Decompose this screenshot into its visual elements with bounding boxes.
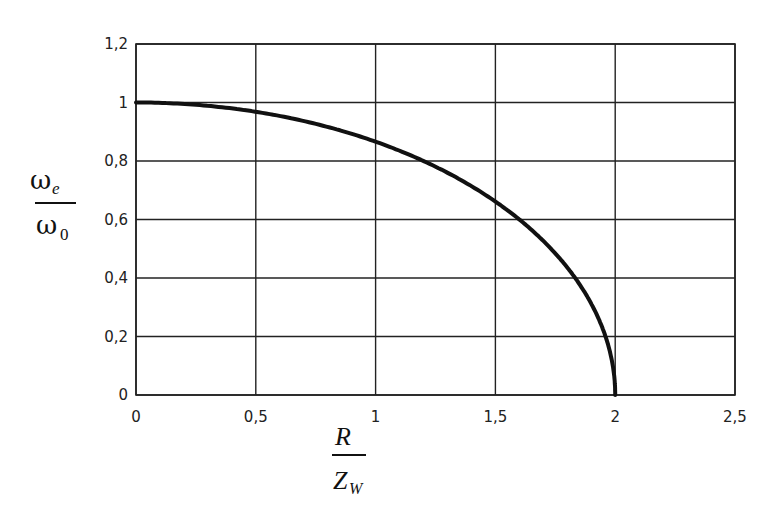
y-label-denominator-sub: 0 — [60, 225, 69, 244]
y-label-numerator: ω — [30, 165, 51, 195]
x-label-denominator: Z — [333, 466, 348, 495]
x-tick-label: 0,5 — [244, 408, 268, 426]
y-tick-labels: 00,20,40,60,811,2 — [104, 35, 128, 404]
x-tick-label: 2,5 — [723, 408, 747, 426]
x-label-denominator-sub: W — [349, 480, 364, 497]
y-tick-label: 0,4 — [104, 269, 128, 287]
y-axis-label: ω e ω 0 — [30, 165, 76, 244]
x-tick-label: 1,5 — [483, 408, 507, 426]
grid-lines — [136, 44, 735, 395]
y-tick-label: 0,8 — [104, 152, 128, 170]
x-axis-label: R Z W — [332, 422, 366, 497]
x-tick-label: 1 — [371, 408, 381, 426]
x-label-numerator: R — [334, 422, 351, 451]
y-tick-label: 0 — [118, 386, 128, 404]
y-label-denominator: ω — [36, 210, 57, 240]
chart: 00,511,522,5 00,20,40,60,811,2 ω e ω 0 R… — [0, 0, 774, 515]
x-tick-labels: 00,511,522,5 — [131, 408, 747, 426]
x-tick-label: 0 — [131, 408, 141, 426]
y-tick-label: 0,6 — [104, 211, 128, 229]
y-tick-label: 1 — [118, 94, 128, 112]
y-tick-label: 0,2 — [104, 328, 128, 346]
y-label-numerator-sub: e — [52, 179, 60, 198]
y-tick-label: 1,2 — [104, 35, 128, 53]
x-tick-label: 2 — [610, 408, 620, 426]
